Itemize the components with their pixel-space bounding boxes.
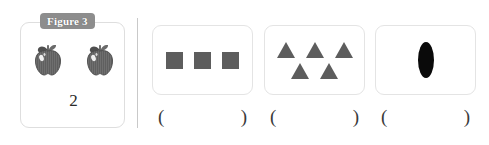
vertical-divider [137,18,138,128]
shape-group-square [166,52,239,69]
triangle-icon [277,42,295,58]
ellipse-icon [418,42,434,78]
shape-group-triangle [277,42,353,79]
answer-blank-2[interactable]: ( ) [264,104,365,130]
apple-icon [31,41,65,77]
question-box-3 [375,25,476,95]
triangle-icon [320,63,338,79]
paren-close: ) [241,104,247,130]
square-icon [166,52,183,69]
example-count-label: 2 [21,91,126,111]
shape-row [166,52,239,69]
answer-blank-1[interactable]: ( ) [152,104,253,130]
shape-row [418,42,434,78]
shape-row [277,42,353,58]
example-apple-row [21,41,126,77]
triangle-icon [335,42,353,58]
question-box-1 [152,25,253,95]
worksheet-canvas: 2 Figure 3 [0,0,489,145]
question-box-2 [264,25,365,95]
answer-blank-3[interactable]: ( ) [375,104,476,130]
square-icon [222,52,239,69]
triangle-icon [291,63,309,79]
paren-close: ) [464,104,470,130]
paren-open: ( [158,104,164,130]
paren-close: ) [353,104,359,130]
paren-open: ( [270,104,276,130]
example-panel: 2 [20,22,125,128]
figure-badge: Figure 3 [40,13,95,29]
paren-open: ( [381,104,387,130]
triangle-icon [306,42,324,58]
apple-icon [83,41,117,77]
square-icon [194,52,211,69]
shape-group-ellipse [418,42,434,78]
shape-row [291,63,338,79]
